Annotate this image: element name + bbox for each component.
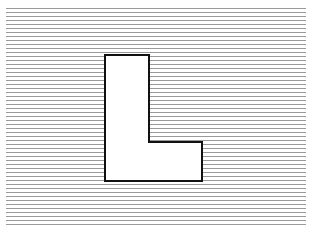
illusion-figure xyxy=(0,0,312,231)
letter-l-shape xyxy=(105,55,202,181)
horizontal-line-field xyxy=(6,9,306,225)
